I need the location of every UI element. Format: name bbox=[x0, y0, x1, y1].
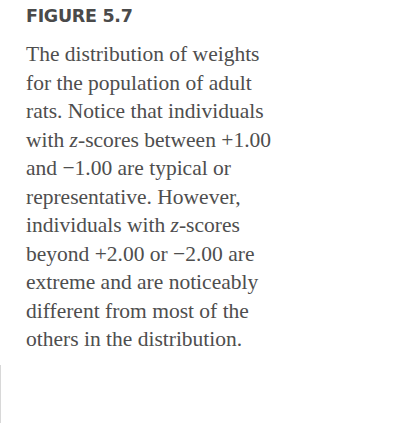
caption-text: with bbox=[26, 128, 70, 152]
caption-line: with z-scores between +1.00 bbox=[26, 126, 393, 155]
caption-line: different from most of the bbox=[26, 297, 393, 326]
caption-line: rats. Notice that individuals bbox=[26, 97, 393, 126]
caption-line: and −1.00 are typical or bbox=[26, 154, 393, 183]
figure-caption: The distribution of weights for the popu… bbox=[26, 40, 393, 354]
caption-line: The distribution of weights bbox=[26, 40, 393, 69]
caption-text: -scores bbox=[179, 213, 240, 237]
z-variable: z bbox=[171, 213, 179, 237]
caption-line: others in the distribution. bbox=[26, 325, 393, 354]
caption-line: representative. However, bbox=[26, 183, 393, 212]
figure-label: FIGURE 5.7 bbox=[26, 4, 133, 28]
left-margin-rule bbox=[0, 365, 1, 423]
caption-text: -scores between +1.00 bbox=[78, 128, 271, 152]
caption-line: beyond +2.00 or −2.00 are bbox=[26, 240, 393, 269]
caption-line: individuals with z-scores bbox=[26, 211, 393, 240]
z-variable: z bbox=[70, 128, 78, 152]
caption-text: individuals with bbox=[26, 213, 171, 237]
caption-line: extreme and are noticeably bbox=[26, 268, 393, 297]
caption-line: for the population of adult bbox=[26, 69, 393, 98]
